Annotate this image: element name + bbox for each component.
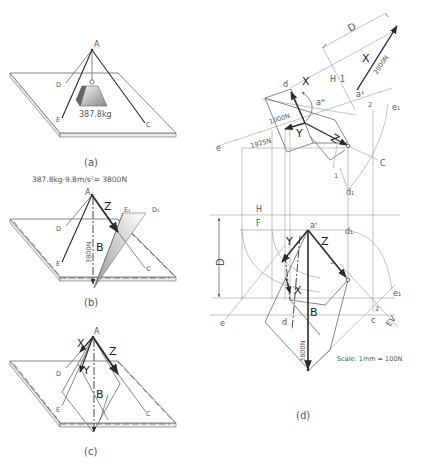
label-a: A <box>94 40 100 49</box>
label-e-bot: e <box>220 319 225 328</box>
caption-c: (c) <box>84 446 97 457</box>
label-c: C <box>146 265 151 273</box>
hook-icon <box>90 80 94 84</box>
label-x-mid: X <box>302 75 310 88</box>
label-z-bot: Z <box>321 235 329 248</box>
label-ev: EV <box>384 314 398 328</box>
label-2-top: 2 <box>368 101 372 109</box>
fold-line-h1 <box>323 48 355 110</box>
label-e: E <box>56 406 60 414</box>
label-e: E <box>56 116 60 124</box>
label-1-mid: 1 <box>334 172 338 180</box>
weight-formula: 387.8kg·9.8m/s²= 3800N <box>32 175 127 184</box>
label-e1-top: e₁ <box>392 103 400 112</box>
caption-b: (b) <box>84 297 98 308</box>
label-d1-top: d₁ <box>346 188 354 197</box>
e-line <box>218 88 392 146</box>
label-h-top: H <box>330 75 336 84</box>
label-d-top: d <box>283 80 288 89</box>
label-c: C <box>146 121 151 129</box>
panel-c: A X Y Z B D E C (c) <box>10 327 176 457</box>
label-x-top: X <box>362 52 370 65</box>
label-a: A <box>94 327 100 336</box>
label-d-bot: d <box>282 318 287 327</box>
label-y-top: Y <box>295 127 303 140</box>
label-a: A <box>85 188 91 197</box>
label-z: Z <box>109 345 117 358</box>
label-d: D <box>56 370 61 378</box>
label-b: B <box>96 388 104 401</box>
label-d: D <box>56 225 61 233</box>
label-h-fold: H <box>256 205 262 214</box>
panel-a: A D E C 387.8kg (a) <box>10 40 176 168</box>
label-b-bot: B <box>310 306 318 319</box>
label-c-top: C <box>380 159 386 168</box>
label-1-bot: 1 <box>330 258 334 266</box>
label-z: Z <box>104 200 112 213</box>
force-x-top-arrow <box>291 92 305 123</box>
label-c-bot: c <box>371 316 375 325</box>
force-3800-label: 3800N <box>299 340 307 362</box>
label-e1-bot: e₁ <box>393 289 401 298</box>
label-z-top: Z <box>329 131 342 146</box>
panel-d: D X 2000N H 1 a¹ d X aᴴ 2 e₁ 1000N Y Z e… <box>210 13 403 421</box>
force-2000-label: 2000N <box>372 54 390 76</box>
label-e: E <box>56 260 60 268</box>
label-2-bot: 2 <box>375 305 379 313</box>
label-d: D <box>56 81 61 89</box>
dim-label-d-top: D <box>346 20 358 33</box>
label-x: X <box>77 337 85 350</box>
label-d1: D₁ <box>152 206 160 214</box>
label-f-fold: F <box>256 219 261 228</box>
label-b: B <box>96 241 104 254</box>
statics-diagram: A D E C 387.8kg (a) 387.8kg·9.8m/s²= 380… <box>0 0 426 468</box>
label-af: aᶠ <box>310 221 317 230</box>
scale-label: Scale: 1mm = 100N <box>337 355 403 363</box>
label-1-top: 1 <box>340 75 345 84</box>
label-a1: a¹ <box>356 90 364 99</box>
dim-label-d-left: D <box>215 258 226 266</box>
panel-b: 387.8kg·9.8m/s²= 3800N A Z E₁ D₁ D E C B… <box>10 175 176 308</box>
label-c: C <box>146 410 151 418</box>
label-x-bot: X <box>294 284 302 297</box>
caption-d: (d) <box>296 410 310 421</box>
label-mass: 387.8kg <box>79 110 112 119</box>
label-d1-bot: d₁ <box>345 227 353 236</box>
label-e1: E₁ <box>124 206 131 214</box>
caption-a: (a) <box>84 157 98 168</box>
label-y-bot: Y <box>285 235 293 248</box>
label-e-top: e <box>216 144 221 153</box>
label-ah: aᴴ <box>316 98 325 107</box>
label-y: Y <box>82 364 90 377</box>
force-label: 3800N <box>85 241 93 263</box>
